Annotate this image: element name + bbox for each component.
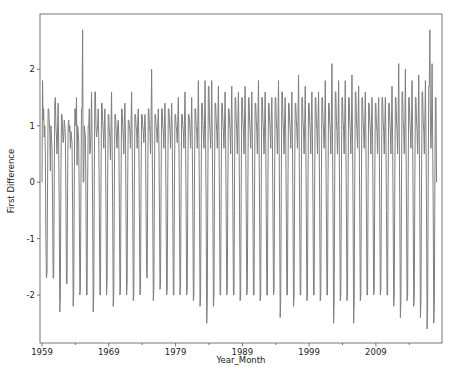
- x-tick-label: 1999: [298, 347, 320, 357]
- x-tick-label: 1979: [165, 347, 187, 357]
- y-tick-label: 0: [30, 177, 35, 187]
- line-chart: -2-1012 195919691979198919992009 Year_Mo…: [0, 0, 458, 382]
- x-tick-label: 2009: [365, 347, 387, 357]
- x-tick-label: 1969: [98, 347, 120, 357]
- x-axis-label: Year_Month: [216, 355, 266, 365]
- y-tick-label: -1: [27, 234, 35, 244]
- chart-background: [0, 0, 458, 382]
- y-axis-label: First Difference: [6, 149, 16, 213]
- x-tick-label: 1959: [31, 347, 53, 357]
- y-tick-label: 1: [30, 121, 35, 131]
- y-tick-label: -2: [27, 290, 35, 300]
- y-tick-label: 2: [30, 64, 35, 74]
